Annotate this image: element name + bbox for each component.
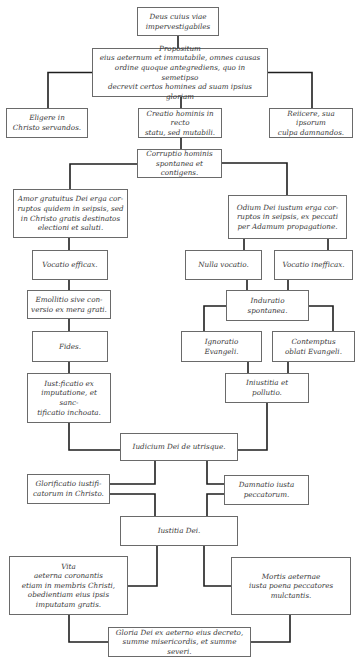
- node-glorificatio: Glorificatio iustifi- catorum in Christo…: [27, 474, 110, 504]
- node-induratio-text: Induratio spontanea.: [248, 296, 288, 315]
- node-emollitio: Emollitio sive con- versio ex mera grati…: [27, 290, 111, 319]
- node-iniustitia: Iniustitia et pollutio.: [225, 373, 309, 403]
- node-gloria: Gloria Dei ex aeterno eius decreto, summ…: [108, 627, 251, 657]
- connector-iudicium-to-damnatio: [207, 461, 224, 484]
- node-iustificatio-text: Iust:ficatio ex imputatione, et sanc- ti…: [31, 379, 107, 417]
- node-creatio-text: Creatio hominis in recto statu, sed muta…: [142, 109, 218, 138]
- node-vocatio-efficax-text: Vocatio efficax.: [42, 260, 97, 270]
- node-propositum: Propositum eius aeternum et immutabile, …: [92, 48, 268, 97]
- node-odium-text: Odium Dei iustum erga cor- ruptos in sei…: [237, 203, 338, 232]
- node-damnatio: Damnatio iusta peccatorum.: [224, 475, 309, 505]
- node-eligere: Eligere in Christo servandos.: [6, 108, 88, 138]
- node-deus-text: Deus cuius viae impervestigabiles: [146, 12, 211, 31]
- node-eligere-text: Eligere in Christo servandos.: [13, 113, 81, 132]
- connector-iustitia-to-vita: [128, 546, 157, 586]
- node-gloria-text: Gloria Dei ex aeterno eius decreto, summ…: [112, 628, 247, 657]
- node-vocatio-efficax: Vocatio efficax.: [32, 250, 108, 280]
- connector-propositum-to-reiicere: [268, 73, 312, 109]
- node-amor: Amor gratuitus Dei erga cor- ruptos quid…: [13, 189, 128, 238]
- node-vocatio-inefficax-text: Vocatio inefficax.: [282, 260, 344, 270]
- node-vita-text: Vita aeterna coronantis etiam in membris…: [22, 562, 115, 610]
- connector-iustificatio-to-iudicium: [69, 423, 120, 450]
- flowchart-canvas: Deus cuius viae impervestigabiles Propos…: [0, 0, 362, 663]
- node-reiicere: Reiicere, sua ipsorum culpa damnandos.: [269, 108, 353, 138]
- connector-mortis-to-gloria: [251, 615, 290, 642]
- node-damnatio-text: Damnatio iusta peccatorum.: [239, 480, 294, 499]
- node-iudicium: Iudicium Dei de utrisque.: [120, 433, 238, 461]
- node-iudicium-text: Iudicium Dei de utrisque.: [133, 442, 226, 452]
- connector-iustitia-to-mortis: [204, 546, 231, 586]
- node-mortis-text: Mortis aeternae iusta poena peccatores m…: [249, 572, 333, 601]
- node-propositum-text: Propositum eius aeternum et immutabile, …: [96, 44, 264, 102]
- node-emollitio-text: Emollitio sive con- versio ex mera grati…: [31, 295, 107, 314]
- connector-propositum-to-eligere: [48, 73, 92, 109]
- node-reiicere-text: Reiicere, sua ipsorum culpa damnandos.: [273, 109, 349, 138]
- node-iniustitia-text: Iniustitia et pollutio.: [246, 378, 288, 397]
- node-amor-text: Amor gratuitus Dei erga cor- ruptos quid…: [17, 194, 123, 232]
- node-corruptio: Corruptio hominis spontanea et contigens…: [137, 149, 222, 178]
- connector-vita-to-gloria: [69, 615, 108, 642]
- node-nulla-vocatio: Nulla vocatio.: [185, 250, 262, 280]
- connector-induratio-to-contemptus: [309, 306, 333, 331]
- node-fides: Fides.: [32, 331, 108, 362]
- node-fides-text: Fides.: [59, 342, 81, 352]
- node-creatio: Creatio hominis in recto statu, sed muta…: [138, 108, 222, 138]
- node-odium: Odium Dei iustum erga cor- ruptos in sei…: [228, 195, 347, 239]
- connector-iniustitia-to-iudicium: [238, 403, 267, 450]
- node-induratio: Induratio spontanea.: [226, 290, 309, 321]
- node-deus: Deus cuius viae impervestigabiles: [137, 7, 219, 36]
- node-nulla-vocatio-text: Nulla vocatio.: [198, 260, 248, 270]
- connector-induratio-to-ignoratio: [204, 306, 226, 331]
- node-ignoratio: Ignoratio Evangeli.: [181, 331, 262, 362]
- connector-iudicium-to-glorificatio: [110, 461, 155, 484]
- node-contemptus: Contemptus oblati Evangeli.: [272, 331, 355, 362]
- node-glorificatio-text: Glorificatio iustifi- catorum in Christo…: [33, 479, 104, 498]
- connector-damnatio-to-iustitia: [207, 494, 224, 516]
- node-corruptio-text: Corruptio hominis spontanea et contigens…: [141, 149, 218, 178]
- node-iustitia: Iustitia Dei.: [120, 516, 238, 546]
- node-vocatio-inefficax: Vocatio inefficax.: [274, 250, 353, 280]
- node-mortis: Mortis aeternae iusta poena peccatores m…: [231, 557, 351, 615]
- node-vita: Vita aeterna coronantis etiam in membris…: [9, 556, 128, 615]
- node-contemptus-text: Contemptus oblati Evangeli.: [285, 337, 342, 356]
- node-iustitia-text: Iustitia Dei.: [158, 526, 201, 536]
- connector-corruptio-to-amor: [70, 164, 137, 189]
- node-iustificatio: Iust:ficatio ex imputatione, et sanc- ti…: [27, 373, 111, 423]
- connector-glorificatio-to-iustitia: [110, 494, 155, 516]
- connector-corruptio-to-odium: [222, 163, 287, 195]
- node-ignoratio-text: Ignoratio Evangeli.: [205, 337, 239, 356]
